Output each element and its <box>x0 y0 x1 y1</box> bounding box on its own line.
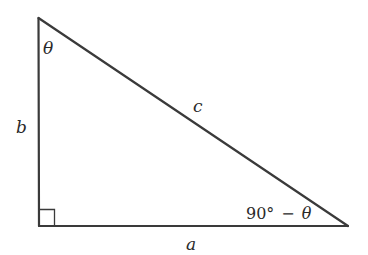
angle-theta-label: θ <box>43 38 53 58</box>
angle-value: 90° <box>246 204 274 223</box>
leg-b-line <box>39 18 40 226</box>
hypotenuse-c-line <box>39 18 349 226</box>
angle-theta-var: θ <box>302 204 312 223</box>
side-b-label: b <box>16 117 27 137</box>
minus-sign: − <box>281 204 294 223</box>
complementary-angle-label: 90° − θ <box>246 204 312 223</box>
right-angle-marker <box>39 210 55 227</box>
right-triangle-diagram: θ c b a 90° − θ <box>0 0 368 255</box>
side-c-label: c <box>193 96 203 116</box>
side-a-label: a <box>186 234 196 254</box>
triangle <box>39 18 349 226</box>
